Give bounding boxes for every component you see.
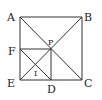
label-e: E [7, 77, 15, 90]
label-i: I [34, 69, 37, 78]
label-d: D [47, 83, 56, 96]
label-f: F [8, 45, 16, 58]
label-c: C [84, 77, 92, 90]
label-p: P [48, 38, 54, 47]
label-b: B [84, 11, 92, 24]
geometry-figure: A B C E F P D I [0, 0, 102, 100]
label-a: A [6, 11, 16, 24]
